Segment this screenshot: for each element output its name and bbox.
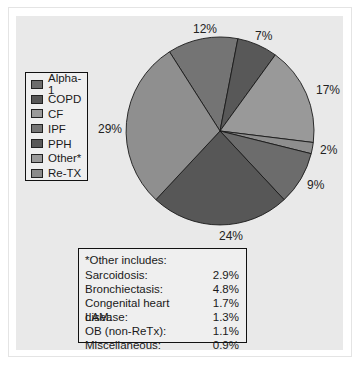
legend-label: PPH (48, 138, 72, 150)
footnote-row: Congenital heart disease: 1.7% (85, 296, 239, 310)
footnote-value: 2.9% (213, 268, 239, 282)
legend-item-copd: COPD (31, 92, 87, 107)
footnote-label: Miscellaneous: (85, 338, 161, 352)
footnote-label: OB (non-ReTx): (85, 324, 166, 338)
swatch-icon (31, 80, 43, 89)
footnote-value: 4.8% (213, 282, 239, 296)
footnote-label: LAM: (85, 310, 112, 324)
footnote-row: Miscellaneous: 0.9% (85, 338, 239, 352)
label-other: 17% (316, 83, 340, 97)
footnote-box: *Other includes: Sarcoidosis: 2.9% Bronc… (78, 248, 247, 343)
label-cf: 29% (98, 122, 122, 136)
label-retx: 2% (320, 143, 338, 157)
footnote-value: 1.3% (213, 310, 239, 324)
legend-label: Other* (48, 152, 81, 164)
footnote-value: 1.7% (213, 296, 239, 310)
legend-label: COPD (48, 93, 81, 105)
footnote-row: Sarcoidosis: 2.9% (85, 268, 239, 282)
label-pph: 7% (255, 29, 273, 43)
footnote-value: 0.9% (213, 338, 239, 352)
legend-label: IPF (48, 123, 66, 135)
legend: Alpha-1 COPD CF IPF PPH Other* Re-TX (25, 72, 88, 181)
legend-item-other: Other* (31, 151, 87, 166)
swatch-icon (31, 169, 43, 178)
swatch-icon (31, 95, 43, 104)
footnote-row: LAM: 1.3% (85, 310, 239, 324)
label-alpha1: 9% (307, 178, 325, 192)
label-ipf: 12% (193, 22, 217, 36)
footnote-label: Sarcoidosis: (85, 268, 148, 282)
legend-label: Re-TX (48, 167, 81, 179)
footnote-label: Bronchiectasis: (85, 282, 163, 296)
footnote-label: Congenital heart disease: (85, 296, 213, 310)
legend-label: CF (48, 108, 63, 120)
legend-item-ipf: IPF (31, 121, 87, 136)
swatch-icon (31, 109, 43, 118)
legend-item-pph: PPH (31, 136, 87, 151)
label-copd: 24% (219, 229, 243, 243)
legend-item-alpha1: Alpha-1 (31, 77, 87, 92)
footnote-title: *Other includes: (85, 253, 239, 268)
swatch-icon (31, 124, 43, 133)
footnote-row: OB (non-ReTx): 1.1% (85, 324, 239, 338)
swatch-icon (31, 154, 43, 163)
legend-item-cf: CF (31, 107, 87, 122)
footnote-value: 1.1% (213, 324, 239, 338)
footnote-row: Bronchiectasis: 4.8% (85, 282, 239, 296)
swatch-icon (31, 139, 43, 148)
legend-item-retx: Re-TX (31, 166, 87, 181)
